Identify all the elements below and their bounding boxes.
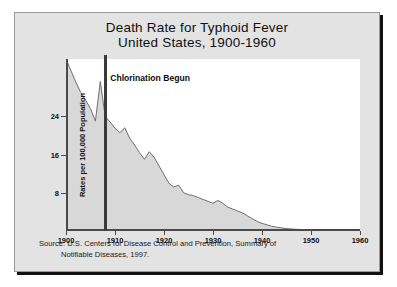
page-title: Death Rate for Typhoid Fever United Stat… [15, 20, 379, 50]
y-tick [61, 116, 66, 117]
title-line-1: Death Rate for Typhoid Fever [15, 20, 379, 35]
x-tick [360, 231, 361, 235]
y-axis-line [66, 59, 68, 231]
x-tick [262, 231, 263, 235]
chart-plot-region: 81624 1900191019201930194019501960 Rates… [66, 59, 360, 231]
title-line-2: United States, 1900-1960 [15, 35, 379, 50]
typhoid-death-rate-area-chart [66, 59, 360, 231]
series-area-fill [66, 59, 360, 231]
source-line-2: Notifiable Diseases, 1997. [39, 250, 365, 261]
y-tick [61, 193, 66, 194]
chlorination-annotation-label: Chlorination Begun [110, 73, 190, 83]
x-tick [213, 231, 214, 235]
y-tick-label: 8 [55, 188, 59, 197]
y-axis-title: Rates per 100,000 Population [78, 93, 87, 197]
x-tick [164, 231, 165, 235]
x-tick [66, 231, 67, 235]
chlorination-marker-line [104, 55, 107, 231]
x-tick [311, 231, 312, 235]
source-note: Source: U.S. Centers for Disease Control… [39, 239, 365, 260]
y-tick-label: 24 [51, 112, 59, 121]
x-tick [115, 231, 116, 235]
y-tick-label: 16 [51, 150, 59, 159]
y-tick [61, 155, 66, 156]
source-line-1: Source: U.S. Centers for Disease Control… [39, 239, 365, 250]
poster-frame: Death Rate for Typhoid Fever United Stat… [14, 12, 380, 272]
